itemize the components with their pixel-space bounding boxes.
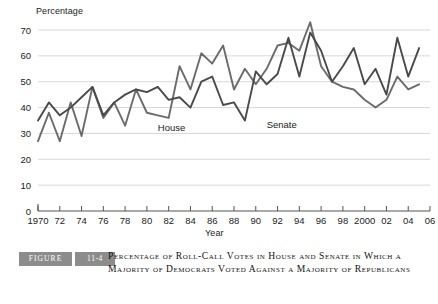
x-tick-label: 74 <box>76 215 87 226</box>
x-tick-label: 82 <box>163 215 174 226</box>
gridlines-group <box>38 30 430 185</box>
y-tick-label: 20 <box>20 154 31 165</box>
x-tick-label: 96 <box>316 215 327 226</box>
line-chart: 010203040506070 197072747678808284868890… <box>0 0 438 246</box>
x-tick-label: 80 <box>142 215 153 226</box>
figure-badge: FIGURE <box>19 252 72 266</box>
chart-container: Percentage 010203040506070 1970727476788… <box>0 0 438 246</box>
x-tick-label: 1970 <box>27 215 48 226</box>
y-tick-label: 30 <box>20 128 31 139</box>
series-inline-labels-group: HouseSenate <box>158 119 297 133</box>
x-axis-group <box>38 204 430 211</box>
series-label-house: House <box>158 122 185 133</box>
x-tick-label: 84 <box>185 215 196 226</box>
caption-badge-group: FIGURE 11-4 <box>19 252 115 266</box>
y-tick-label: 40 <box>20 102 31 113</box>
x-tick-label: 86 <box>207 215 218 226</box>
x-tick-label: 78 <box>120 215 131 226</box>
x-tick-label: 98 <box>338 215 349 226</box>
x-tick-label: 2000 <box>354 215 375 226</box>
x-tick-label: 76 <box>98 215 109 226</box>
x-axis-title: Year <box>205 228 224 238</box>
y-tick-label: 70 <box>20 25 31 36</box>
x-tick-label: 72 <box>54 215 65 226</box>
x-tick-label: 88 <box>229 215 240 226</box>
x-tick-label: 90 <box>250 215 261 226</box>
series-label-senate: Senate <box>267 119 297 130</box>
x-tick-label: 02 <box>381 215 392 226</box>
y-tick-label: 50 <box>20 76 31 87</box>
caption-text: Percentage of Roll-Call Votes in House a… <box>108 250 426 275</box>
x-tick-label: 92 <box>272 215 283 226</box>
x-tick-labels-group: 1970727476788082848688909294969820000204… <box>27 215 435 226</box>
figure-caption: FIGURE 11-4 Percentage of Roll-Call Vote… <box>0 249 438 304</box>
y-tick-label: 60 <box>20 50 31 61</box>
figure-container: Percentage 010203040506070 1970727476788… <box>0 0 438 304</box>
y-tick-labels-group: 010203040506070 <box>20 25 31 217</box>
x-tick-label: 94 <box>294 215 305 226</box>
x-tick-label: 06 <box>425 215 436 226</box>
y-tick-label: 10 <box>20 180 31 191</box>
x-tick-label: 04 <box>403 215 414 226</box>
